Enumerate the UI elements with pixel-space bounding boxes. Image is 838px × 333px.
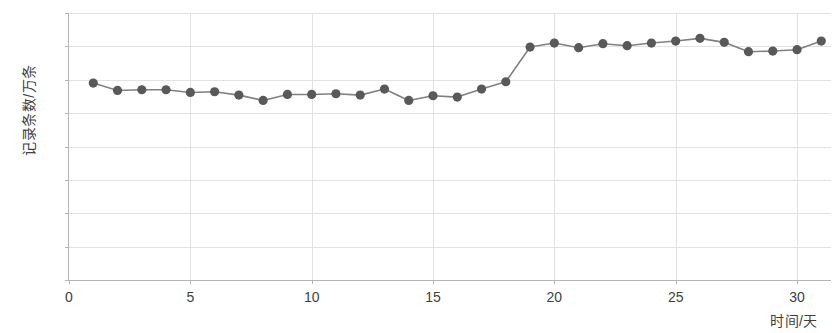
data-point: [161, 85, 170, 94]
data-point: [356, 91, 365, 100]
data-point: [453, 93, 462, 102]
data-point: [428, 91, 437, 100]
x-tick-mark: [312, 280, 313, 284]
series-line: [93, 38, 821, 100]
x-tick-mark: [190, 280, 191, 284]
data-point: [210, 87, 219, 96]
x-tick-mark: [554, 280, 555, 284]
data-point: [598, 39, 607, 48]
data-point: [768, 46, 777, 55]
y-axis-title: 记录条数/万条: [18, 40, 38, 180]
data-point: [307, 90, 316, 99]
data-point: [695, 34, 704, 43]
line-chart: 记录条数/万条 时间/天 00.511.522.533.54 051015202…: [0, 0, 838, 333]
data-point: [574, 43, 583, 52]
data-point: [331, 89, 340, 98]
data-point: [647, 38, 656, 47]
data-point: [283, 90, 292, 99]
x-tick-mark: [433, 280, 434, 284]
data-point: [671, 36, 680, 45]
x-tick-mark: [69, 280, 70, 284]
data-point: [259, 96, 268, 105]
data-point: [113, 86, 122, 95]
x-tick-label: 0: [49, 290, 89, 304]
x-tick-label: 20: [534, 290, 574, 304]
x-tick-label: 25: [656, 290, 696, 304]
x-tick-label: 15: [413, 290, 453, 304]
x-tick-label: 10: [292, 290, 332, 304]
x-tick-label: 30: [777, 290, 817, 304]
data-point: [792, 45, 801, 54]
data-point: [380, 84, 389, 93]
data-point: [720, 38, 729, 47]
data-point: [623, 41, 632, 50]
x-tick-mark: [676, 280, 677, 284]
x-tick-label: 5: [170, 290, 210, 304]
data-point: [477, 84, 486, 93]
data-point: [525, 42, 534, 51]
data-point: [186, 88, 195, 97]
data-point: [550, 38, 559, 47]
x-axis-title: 时间/天: [770, 310, 818, 330]
plot-area: 00.511.522.533.54 051015202530: [68, 13, 831, 281]
data-point: [137, 85, 146, 94]
data-point: [501, 77, 510, 86]
data-point: [234, 91, 243, 100]
data-series-line: [69, 13, 831, 280]
data-point: [404, 96, 413, 105]
data-point: [817, 36, 826, 45]
data-point: [89, 78, 98, 87]
data-point: [744, 47, 753, 56]
x-tick-mark: [797, 280, 798, 284]
